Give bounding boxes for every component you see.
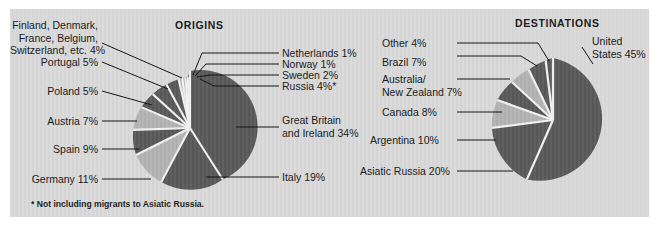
label-asiatic-russia: Asiatic Russia 20% [360,165,450,178]
label-argentina: Argentina 10% [370,134,439,147]
figure-panel: ORIGINS [10,9,649,217]
migration-pie-figure: ORIGINS [0,0,666,228]
label-other: Other 4% [382,37,426,50]
destinations-pie-svg [10,9,649,217]
leader-other [457,43,549,61]
label-australia-nz: Australia/ New Zealand 7% [382,73,462,98]
label-brazil: Brazil 7% [382,56,426,69]
label-united-states: United States 45% [592,35,646,60]
label-canada: Canada 8% [382,106,437,119]
leader-brazil [457,56,537,66]
